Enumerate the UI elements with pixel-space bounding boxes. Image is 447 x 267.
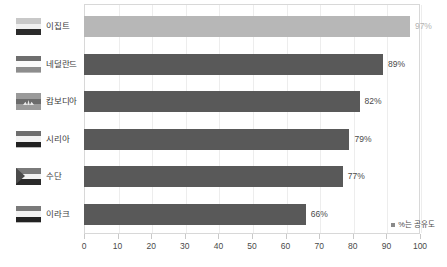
legend-label: %는 공유도: [398, 220, 435, 229]
flag-iraq-icon: [16, 206, 41, 223]
flag-stripe: [16, 104, 41, 110]
axis-tick-label: 90: [382, 241, 391, 251]
bar: [84, 16, 410, 37]
bar-row: 네덜란드89%: [0, 46, 447, 84]
axis-tick: [84, 234, 85, 239]
bar: [84, 166, 343, 187]
axis-tick-label: 100: [413, 241, 427, 251]
axis-tick: [151, 234, 152, 239]
axis-tick-label: 40: [214, 241, 223, 251]
axis-tick: [386, 234, 387, 239]
flag-stripe: [16, 217, 41, 223]
bar: [84, 91, 360, 112]
bar-value-label: 79%: [354, 130, 371, 148]
bar-category-label: 수단: [46, 167, 84, 185]
bar-value-label: 89%: [388, 55, 405, 73]
flag-stripe: [16, 29, 41, 35]
bar-row: 수단77%: [0, 158, 447, 196]
axis-tick-label: 20: [146, 241, 155, 251]
flag-stripe: [16, 142, 41, 148]
bar: [84, 129, 349, 150]
flag-triangle: [16, 168, 25, 184]
bar-row: 이라크66%: [0, 196, 447, 234]
bar-value-label: 77%: [348, 167, 365, 185]
axis-tick-label: 60: [281, 241, 290, 251]
axis-tick: [286, 234, 287, 239]
flag-cambodia-icon: [16, 93, 41, 110]
bar-category-label: 캄보디아: [46, 92, 84, 110]
axis-tick: [353, 234, 354, 239]
axis-tick-label: 80: [348, 241, 357, 251]
axis-tick: [185, 234, 186, 239]
axis-tick-label: 0: [82, 241, 87, 251]
x-axis: 0102030405060708090100: [84, 234, 420, 262]
bar-row: 캄보디아82%: [0, 83, 447, 121]
axis-tick: [420, 234, 421, 239]
flag-stripe: [16, 67, 41, 73]
bar-value-label: 82%: [365, 92, 382, 110]
flag-sudan-icon: [16, 168, 41, 185]
flag-netherlands-icon: [16, 56, 41, 73]
bar-category-label: 이집트: [46, 17, 84, 35]
flag-syria-icon: [16, 131, 41, 148]
bar-chart: 이집트97%네덜란드89%캄보디아82%시리아79%수단77%이라크66% 01…: [0, 0, 447, 267]
bar-row: 시리아79%: [0, 121, 447, 159]
bar-category-label: 네덜란드: [46, 55, 84, 73]
axis-tick-label: 70: [314, 241, 323, 251]
bar-category-label: 이라크: [46, 205, 84, 223]
axis-tick-label: 50: [247, 241, 256, 251]
bar: [84, 204, 306, 225]
bar-value-label: 66%: [311, 205, 328, 223]
chart-legend: %는 공유도: [391, 220, 435, 230]
axis-tick-label: 10: [113, 241, 122, 251]
bar-row: 이집트97%: [0, 8, 447, 46]
axis-tick-label: 30: [180, 241, 189, 251]
bar-value-label: 97%: [415, 17, 432, 35]
axis-tick: [218, 234, 219, 239]
flag-egypt-icon: [16, 18, 41, 35]
legend-swatch-icon: [391, 223, 395, 227]
bar-category-label: 시리아: [46, 130, 84, 148]
bar: [84, 54, 383, 75]
axis-tick: [118, 234, 119, 239]
axis-tick: [252, 234, 253, 239]
axis-tick: [319, 234, 320, 239]
